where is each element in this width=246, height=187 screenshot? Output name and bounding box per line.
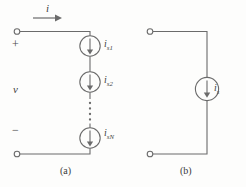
source-subscript-is2: s2	[107, 80, 113, 87]
current-source-isN	[80, 128, 100, 148]
source-label-isN: isN	[104, 128, 114, 141]
voltage-label-v: v	[13, 84, 18, 95]
wire-a-top	[20, 32, 90, 37]
series-ellipsis-dots	[89, 102, 91, 121]
source-subscript-isN: sN	[107, 133, 114, 140]
caption-b: (b)	[180, 166, 192, 176]
wire-b-top	[153, 32, 207, 79]
terminal-a-top	[14, 29, 20, 35]
source-label-is1: is1	[104, 39, 113, 52]
current-direction-arrow	[33, 14, 62, 21]
wire-b-bottom	[153, 101, 207, 154]
terminal-a-bottom	[14, 151, 20, 157]
circuit-schematic-canvas	[0, 0, 246, 187]
source-subscript-is1: s1	[107, 44, 113, 51]
caption-a: (a)	[60, 166, 71, 176]
circuit-figure: i + v − is1 is2 isN is (a) (b)	[0, 0, 246, 187]
current-label-i: i	[46, 3, 49, 14]
wire-a-bottom	[20, 148, 90, 154]
circuit-a-group	[14, 14, 100, 156]
current-source-is1	[80, 36, 100, 56]
polarity-plus-label: +	[12, 38, 19, 50]
terminal-b-bottom	[147, 151, 153, 157]
current-source-is2	[80, 72, 100, 92]
terminal-b-top	[147, 29, 153, 35]
circuit-b-group	[147, 29, 218, 157]
polarity-minus-label: −	[12, 124, 19, 136]
source-label-is2: is2	[104, 75, 113, 88]
source-label-is: is	[214, 83, 219, 96]
source-subscript-is: s	[217, 88, 220, 95]
